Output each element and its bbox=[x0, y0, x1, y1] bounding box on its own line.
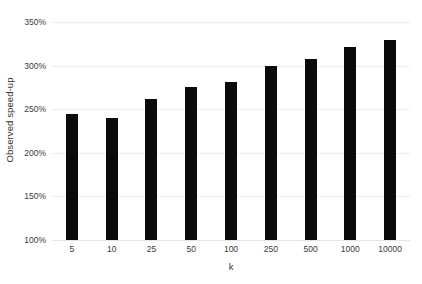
bar bbox=[384, 40, 396, 240]
plot-area bbox=[52, 22, 410, 240]
y-axis-tick-label: 250% bbox=[4, 104, 46, 114]
gridline bbox=[52, 240, 410, 241]
x-axis-tick-label: 100 bbox=[209, 244, 253, 254]
x-axis-tick-label: 10 bbox=[90, 244, 134, 254]
x-axis-tick-label: 25 bbox=[129, 244, 173, 254]
bar bbox=[265, 66, 277, 240]
bar-chart: Observed speed-up 100%150%200%250%300%35… bbox=[0, 0, 422, 284]
bar bbox=[66, 114, 78, 240]
y-axis-tick-label: 150% bbox=[4, 191, 46, 201]
bar bbox=[106, 118, 118, 240]
bar bbox=[185, 87, 197, 240]
y-axis-tick-label: 200% bbox=[4, 148, 46, 158]
bar bbox=[305, 59, 317, 240]
y-axis-title: Observed speed-up bbox=[0, 0, 18, 240]
bar bbox=[344, 47, 356, 240]
x-axis-tick-label: 500 bbox=[289, 244, 333, 254]
x-axis-tick-label: 1000 bbox=[328, 244, 372, 254]
y-axis-tick-label: 350% bbox=[4, 17, 46, 27]
x-axis-tick-label: 250 bbox=[249, 244, 293, 254]
bar bbox=[225, 82, 237, 240]
x-axis-tick-label: 10000 bbox=[368, 244, 412, 254]
y-axis-tick-label: 100% bbox=[4, 235, 46, 245]
x-axis-title: k bbox=[52, 261, 410, 272]
gridline bbox=[52, 22, 410, 23]
x-axis-tick-label: 5 bbox=[50, 244, 94, 254]
y-axis-tick-label: 300% bbox=[4, 61, 46, 71]
x-axis-tick-label: 50 bbox=[169, 244, 213, 254]
bar bbox=[145, 99, 157, 240]
